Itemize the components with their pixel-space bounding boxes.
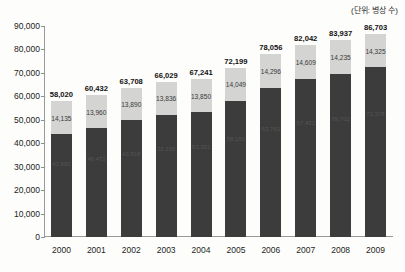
bar-total-label: 86,703 (357, 23, 394, 32)
bar-segment-upper-label: 14,235 (330, 53, 351, 60)
bar-segment-lower-label: 58,150 (225, 136, 246, 142)
bar-segment-lower[interactable]: 43,885 (51, 134, 72, 237)
bar-total-label: 82,042 (287, 34, 324, 43)
y-axis-tick-mark (41, 143, 45, 144)
bar-segment-lower[interactable]: 58,150 (225, 101, 246, 237)
x-axis-tick-label: 2007 (296, 245, 315, 255)
y-axis-tick-label: 50,000 (0, 115, 40, 125)
bar-segment-lower[interactable]: 49,818 (121, 120, 142, 237)
bar-group[interactable]: 67,24113,85053,391 (191, 79, 212, 237)
x-axis-tick-label: 2003 (157, 245, 176, 255)
bar-group[interactable]: 60,43213,96046,472 (86, 95, 107, 237)
bar-segment-upper-label: 14,325 (365, 47, 386, 54)
bar-segment-lower[interactable]: 52,193 (156, 115, 177, 237)
bar-total-label: 60,432 (78, 84, 115, 93)
y-axis-tick-mark (41, 120, 45, 121)
bar-segment-upper[interactable]: 14,609 (295, 45, 316, 79)
bar-segment-upper-label: 13,960 (86, 108, 107, 115)
bar-segment-upper-label: 13,850 (191, 92, 212, 99)
bar-segment-upper[interactable]: 13,850 (191, 79, 212, 111)
bar-segment-upper[interactable]: 14,325 (365, 34, 386, 68)
y-axis-tick-label: 80,000 (0, 44, 40, 54)
x-axis-tick-label: 2000 (52, 245, 71, 255)
bar-segment-upper[interactable]: 14,049 (225, 68, 246, 101)
bar-segment-lower-label: 72,378 (365, 111, 386, 117)
bar-segment-lower-label: 53,391 (191, 144, 212, 150)
x-axis-tick-label: 2004 (192, 245, 211, 255)
bar-segment-lower-label: 43,885 (51, 161, 72, 167)
bar-group[interactable]: 86,70314,32572,378 (365, 34, 386, 237)
bar-segment-lower[interactable]: 67,433 (295, 79, 316, 237)
bar-segment-lower-label: 63,760 (260, 126, 281, 132)
y-axis-tick-mark (41, 237, 45, 238)
bar-total-label: 58,020 (43, 90, 80, 99)
bar-total-label: 72,199 (217, 57, 254, 66)
bar-total-label: 67,241 (183, 68, 220, 77)
bar-segment-upper[interactable]: 14,296 (260, 54, 281, 88)
x-axis-tick-label: 2009 (366, 245, 385, 255)
bar-segment-lower-label: 49,818 (121, 151, 142, 157)
x-axis-tick-label: 2001 (87, 245, 106, 255)
y-axis-tick-label: 30,000 (0, 162, 40, 172)
x-axis-tick-label: 2005 (226, 245, 245, 255)
y-axis-tick-label: 20,000 (0, 185, 40, 195)
x-axis-tick-label: 2008 (331, 245, 350, 255)
y-axis-tick-label: 70,000 (0, 68, 40, 78)
stacked-bar-chart: (단위: 병상 수) 010,00020,00030,00040,00050,0… (0, 0, 405, 272)
bar-segment-upper-label: 13,836 (156, 95, 177, 102)
bar-group[interactable]: 58,02014,13543,885 (51, 101, 72, 237)
y-axis-tick-label: 10,000 (0, 209, 40, 219)
bar-segment-upper[interactable]: 13,890 (121, 88, 142, 121)
y-axis-tick-label: 40,000 (0, 138, 40, 148)
bar-segment-upper-label: 14,296 (260, 67, 281, 74)
y-axis-tick-mark (41, 190, 45, 191)
bar-segment-lower[interactable]: 46,472 (86, 128, 107, 237)
bar-total-label: 78,056 (252, 43, 289, 52)
bar-group[interactable]: 78,05614,29663,760 (260, 54, 281, 237)
bar-segment-upper[interactable]: 14,135 (51, 101, 72, 134)
bar-segment-lower[interactable]: 69,702 (330, 74, 351, 237)
y-axis-tick-mark (41, 26, 45, 27)
bar-segment-lower-label: 46,472 (86, 156, 107, 162)
bar-group[interactable]: 82,04214,60967,433 (295, 45, 316, 237)
bar-segment-lower-label: 67,433 (295, 120, 316, 126)
bar-segment-upper[interactable]: 13,836 (156, 82, 177, 114)
bar-total-label: 83,937 (322, 29, 359, 38)
bar-segment-upper-label: 14,609 (295, 58, 316, 65)
y-axis-tick-mark (41, 214, 45, 215)
y-axis-tick-label: 0 (0, 232, 40, 242)
bar-segment-upper-label: 13,890 (121, 100, 142, 107)
bar-segment-upper-label: 14,135 (51, 114, 72, 121)
bar-group[interactable]: 72,19914,04958,150 (225, 68, 246, 237)
bar-total-label: 63,708 (113, 77, 150, 86)
y-axis-labels: 010,00020,00030,00040,00050,00060,00070,… (0, 0, 44, 272)
y-axis-tick-label: 90,000 (0, 21, 40, 31)
bar-segment-upper[interactable]: 14,235 (330, 40, 351, 73)
y-axis-tick-mark (41, 73, 45, 74)
bar-segment-lower-label: 69,702 (330, 116, 351, 122)
bar-segment-upper-label: 14,049 (225, 81, 246, 88)
y-axis-tick-mark (41, 167, 45, 168)
y-axis-tick-label: 60,000 (0, 91, 40, 101)
x-axis-tick-label: 2006 (261, 245, 280, 255)
bar-segment-lower-label: 52,193 (156, 146, 177, 152)
bar-segment-lower[interactable]: 72,378 (365, 67, 386, 237)
y-axis-tick-mark (41, 49, 45, 50)
bar-group[interactable]: 63,70813,89049,818 (121, 88, 142, 237)
bar-group[interactable]: 83,93714,23569,702 (330, 40, 351, 237)
bar-segment-lower[interactable]: 53,391 (191, 112, 212, 237)
bar-segment-upper[interactable]: 13,960 (86, 95, 107, 128)
x-axis-tick-label: 2002 (122, 245, 141, 255)
bar-total-label: 66,029 (148, 71, 185, 80)
bar-segment-lower[interactable]: 63,760 (260, 88, 281, 237)
unit-caption: (단위: 병상 수) (351, 4, 398, 15)
bar-group[interactable]: 66,02913,83652,193 (156, 82, 177, 237)
